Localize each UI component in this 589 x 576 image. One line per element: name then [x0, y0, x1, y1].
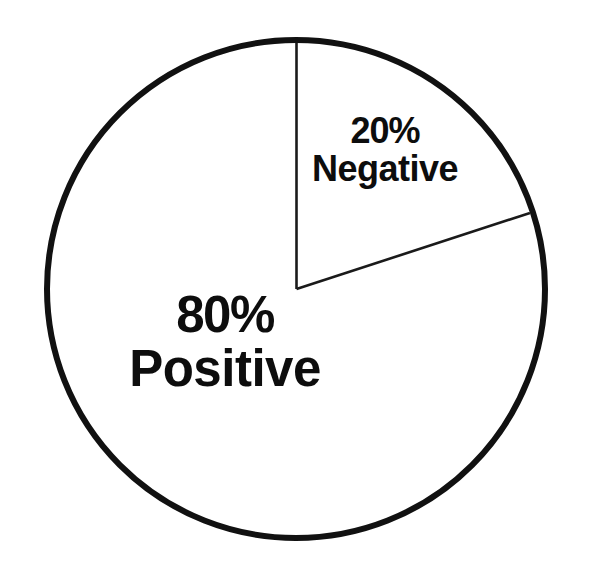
pie-chart: 20% Negative 80% Positive — [0, 0, 589, 576]
pie-label-positive-percent: 80% — [95, 288, 355, 342]
pie-label-negative-percent: 20% — [265, 112, 505, 150]
pie-label-positive-category: Positive — [95, 342, 355, 396]
pie-label-positive: 80% Positive — [95, 288, 355, 396]
pie-label-negative-category: Negative — [265, 150, 505, 188]
pie-label-negative: 20% Negative — [265, 112, 505, 188]
